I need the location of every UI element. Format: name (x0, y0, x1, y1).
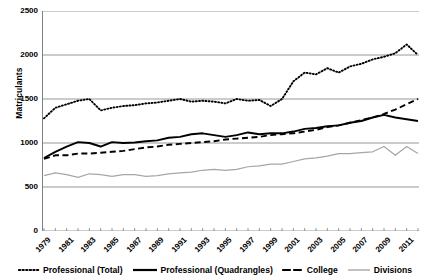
y-axis-tick-label: 500 (6, 183, 38, 191)
y-axis-tick-label: 2000 (6, 51, 38, 59)
legend-label: College (307, 265, 338, 275)
y-axis-tick-label: 1500 (6, 95, 38, 103)
line-chart: Matriculants 25002000150010005000 197919… (0, 0, 430, 280)
dashed-line-swatch (282, 266, 304, 274)
plot-area (42, 11, 418, 231)
series-line-professional-quadrangles (44, 115, 418, 158)
y-axis-tick-label: 1000 (6, 139, 38, 147)
plot-svg (43, 11, 419, 231)
legend-item[interactable]: College (282, 265, 338, 275)
legend-label: Professional (Total) (43, 265, 123, 275)
legend-label: Professional (Quadrangles) (161, 265, 273, 275)
gray-line-swatch (347, 266, 371, 274)
dotted-line-swatch (18, 266, 40, 274)
series-line-divisions (44, 147, 418, 178)
y-axis-tick-label: 2500 (6, 7, 38, 15)
series-line-college (44, 99, 418, 159)
legend-item[interactable]: Professional (Quadrangles) (132, 265, 273, 275)
series-line-professional-total (44, 44, 418, 118)
legend-item[interactable]: Divisions (347, 265, 412, 275)
legend-label: Divisions (374, 265, 412, 275)
legend-item[interactable]: Professional (Total) (18, 265, 123, 275)
chart-legend: Professional (Total)Professional (Quadra… (0, 262, 430, 278)
solid-line-swatch (132, 266, 158, 274)
